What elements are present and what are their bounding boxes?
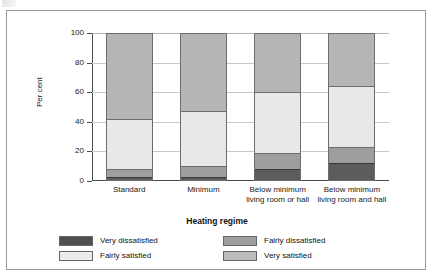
x-axis-title: Heating regime: [7, 216, 427, 226]
bar-segment: [254, 169, 301, 181]
legend-item-very-dissatisfied: Very dissatisfied: [59, 233, 209, 248]
plot-area: 020406080100: [92, 33, 389, 181]
bar-segment: [106, 119, 153, 169]
y-axis-title: Per cent: [35, 77, 44, 107]
figure-root: Per cent 020406080100 StandardMinimumBel…: [0, 0, 434, 278]
legend-swatch-fairly-dissatisfied: [223, 236, 257, 246]
bar-segment: [180, 111, 227, 166]
legend-item-very-satisfied: Very satisfied: [223, 248, 373, 263]
y-tick-label-80: 80: [75, 59, 84, 67]
bar-segment: [106, 33, 153, 119]
legend-swatch-fairly-satisfied: [59, 251, 93, 261]
scan-artifact: [2, 0, 16, 7]
bar-segment: [328, 33, 375, 86]
y-tick-label-40: 40: [75, 118, 84, 126]
bar-segment: [254, 33, 301, 92]
bar-segment: [106, 169, 153, 176]
legend-swatch-very-satisfied: [223, 251, 257, 261]
y-tick-60: [87, 92, 92, 93]
legend-swatch-very-dissatisfied: [59, 236, 93, 246]
bar-segment: [254, 92, 301, 153]
bar-segment: [328, 147, 375, 163]
legend-label: Very satisfied: [264, 251, 312, 260]
bar-segment: [106, 177, 153, 181]
y-tick-80: [87, 63, 92, 64]
x-tick-label: Below minimumliving room and hall: [297, 185, 407, 205]
y-tick-100: [87, 33, 92, 34]
y-tick-label-0: 0: [80, 177, 84, 185]
bar-segment: [328, 163, 375, 181]
stacked-bar: [254, 33, 301, 181]
y-tick-0: [87, 181, 92, 182]
y-tick-20: [87, 151, 92, 152]
stacked-bar: [328, 33, 375, 181]
y-tick-label-100: 100: [71, 29, 84, 37]
bar-segment: [180, 166, 227, 176]
bar-segment: [328, 86, 375, 147]
legend-item-fairly-satisfied: Fairly satisfied: [59, 248, 209, 263]
chart-legend: Very dissatisfiedFairly dissatisfiedFair…: [59, 233, 379, 263]
stacked-bar: [106, 33, 153, 181]
y-tick-label-60: 60: [75, 88, 84, 96]
bar-segment: [180, 33, 227, 111]
legend-label: Fairly satisfied: [100, 251, 151, 260]
y-axis-line: [92, 33, 93, 181]
legend-label: Very dissatisfied: [100, 236, 158, 245]
y-tick-label-20: 20: [75, 147, 84, 155]
y-tick-40: [87, 122, 92, 123]
legend-label: Fairly dissatisfied: [264, 236, 325, 245]
x-axis-tick-labels: StandardMinimumBelow minimumliving room …: [92, 185, 389, 211]
bar-segment: [180, 177, 227, 181]
chart-frame: Per cent 020406080100 StandardMinimumBel…: [6, 10, 426, 270]
bar-segment: [254, 153, 301, 169]
stacked-bar: [180, 33, 227, 181]
legend-item-fairly-dissatisfied: Fairly dissatisfied: [223, 233, 373, 248]
